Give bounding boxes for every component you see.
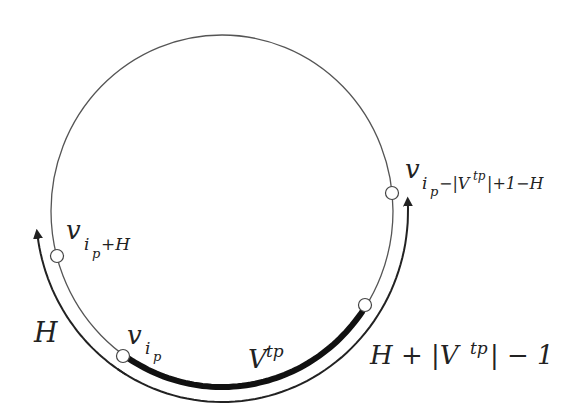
- node-v-ip: [117, 350, 130, 363]
- node-vtp-end: [359, 299, 372, 312]
- label-subsub: p: [92, 246, 101, 261]
- node-v-ip-plus-h: [51, 250, 64, 263]
- label-v-ip-plus-h: v i p +H: [66, 215, 131, 261]
- label-sub-tail: −|V: [439, 174, 471, 193]
- label-sub: i: [422, 173, 427, 193]
- label-prefix: H + |V: [369, 340, 461, 370]
- label-sub-tail: +H: [101, 234, 131, 254]
- label-vtp: V tp: [248, 341, 284, 374]
- label-sub-tail2: |+1−H: [487, 174, 544, 193]
- label-subsub: p: [430, 184, 439, 199]
- label-sub-sup: tp: [473, 169, 486, 183]
- vtp-thick-arc: [129, 311, 363, 387]
- label-h-plus-vtp-minus-1: H + |V tp | − 1: [369, 338, 554, 370]
- label-sup: tp: [470, 338, 488, 358]
- label-base: v: [127, 320, 142, 350]
- label-sup: tp: [266, 341, 284, 361]
- label-suffix: | − 1: [490, 340, 554, 370]
- label-subsub: p: [153, 349, 162, 364]
- label-sub: i: [145, 338, 150, 358]
- label-sub: i: [84, 234, 89, 254]
- label-base: v: [66, 215, 81, 245]
- label-v-ip-minus: v i p −|V tp |+1−H: [405, 154, 544, 199]
- label-h: H: [33, 317, 58, 348]
- cycle-diagram: v i p +H v i p v i p −|V tp |+1−H V tp H…: [0, 0, 583, 416]
- node-v-ip-minus: [386, 187, 399, 200]
- label-base: v: [405, 154, 420, 184]
